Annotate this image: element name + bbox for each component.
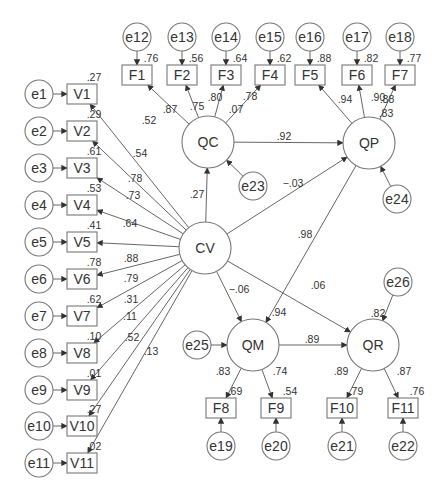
loading-label: .88	[124, 252, 139, 264]
path-cv-v10	[89, 269, 190, 416]
indicator-label: F8	[213, 400, 230, 416]
path-qc-qp	[234, 142, 343, 143]
path-cv-v8	[94, 265, 186, 343]
indicator-label: F2	[174, 67, 191, 83]
path-coefficient-label: .92	[277, 130, 292, 142]
r-squared-label: .27	[87, 403, 102, 415]
error-term-label: e5	[31, 234, 47, 250]
path-coefficient-label: .27	[190, 188, 205, 200]
error-term-label: e14	[214, 29, 238, 45]
latent-r-squared-label: .82	[371, 307, 386, 319]
latent-r-squared-label: .94	[272, 306, 287, 318]
indicator-label: F9	[268, 400, 285, 416]
r-squared-label: .76	[410, 385, 425, 397]
indicator-label: V3	[73, 160, 90, 176]
path-cv-v1	[90, 104, 189, 228]
indicator-label: F1	[129, 67, 146, 83]
loading-label: .31	[124, 293, 139, 305]
r-squared-label: .69	[228, 385, 243, 397]
error-term-label: e2	[31, 123, 47, 139]
r-squared-label: .61	[87, 145, 102, 157]
error-term-label: e18	[388, 29, 412, 45]
r-squared-label: .10	[87, 330, 102, 342]
loading-label: .80	[208, 91, 223, 103]
path-cv-v7	[97, 261, 182, 308]
path-qp-qm	[266, 166, 356, 323]
loading-label: .94	[338, 93, 353, 105]
error-term-label: e9	[31, 382, 47, 398]
indicator-label: F3	[218, 67, 235, 83]
loading-label: .83	[216, 365, 231, 377]
indicator-label: F11	[391, 400, 414, 416]
indicator-label: V10	[70, 418, 95, 434]
error-term-label: e17	[345, 29, 369, 45]
path-coefficient-label: −.06	[229, 283, 250, 295]
indicator-label: F7	[392, 67, 409, 83]
error-term-label: e22	[391, 438, 415, 454]
r-squared-label: .56	[189, 52, 204, 64]
error-term-label: e16	[298, 29, 322, 45]
error-term-label: e15	[258, 29, 282, 45]
r-squared-label: .02	[87, 440, 102, 452]
path-coefficient-label: .98	[298, 228, 313, 240]
indicator-label: F4	[262, 67, 279, 83]
indicator-label: V7	[73, 308, 90, 324]
path-cv-v4	[97, 210, 180, 239]
path-cv-v11	[88, 271, 192, 453]
r-squared-label: .82	[364, 52, 379, 64]
path-cv-qc	[206, 168, 208, 222]
r-squared-label: .01	[87, 367, 102, 379]
r-squared-label: .79	[349, 385, 364, 397]
r-squared-label: .29	[87, 108, 102, 120]
indicator-label: V5	[73, 234, 90, 250]
error-term-label: e6	[31, 271, 47, 287]
error-term-label: e24	[385, 191, 409, 207]
r-squared-label: .77	[407, 52, 422, 64]
path-coefficient-label: .06	[311, 279, 326, 291]
indicator-label: V8	[73, 345, 90, 361]
r-squared-label: .64	[233, 52, 248, 64]
error-term-label: e26	[386, 274, 410, 290]
r-squared-label: .27	[87, 71, 102, 83]
latent-factor-label: CV	[195, 240, 215, 256]
error-term-label: e21	[330, 438, 354, 454]
r-squared-label: .62	[277, 52, 292, 64]
r-squared-label: .53	[87, 182, 102, 194]
loading-label: .78	[243, 90, 258, 102]
latent-factor-label: QC	[198, 134, 219, 150]
loading-label: .54	[133, 147, 148, 159]
loading-label: .78	[128, 172, 143, 184]
r-squared-label: .62	[87, 293, 102, 305]
path-qm-f9	[262, 369, 272, 398]
loading-label: .73	[126, 189, 141, 201]
indicator-label: F10	[330, 400, 354, 416]
error-term-label: e25	[185, 337, 209, 353]
path-cv-v6	[97, 254, 180, 275]
error-term-label: e1	[31, 86, 47, 102]
loading-label: .13	[144, 345, 159, 357]
path-e24-qp	[381, 166, 391, 186]
error-term-label: e3	[31, 160, 47, 176]
path-e23-qc	[227, 160, 243, 176]
indicator-label: F6	[349, 67, 366, 83]
indicator-label: V9	[73, 382, 90, 398]
error-term-label: e10	[27, 418, 51, 434]
error-term-label: e20	[264, 438, 288, 454]
r-squared-label: .88	[317, 52, 332, 64]
loading-label: .89	[334, 365, 349, 377]
path-cv-v5	[97, 243, 179, 247]
error-term-label: e4	[31, 197, 47, 213]
r-squared-label: .78	[87, 256, 102, 268]
r-squared-label: .76	[144, 52, 159, 64]
loading-label: .88	[380, 93, 395, 105]
loading-label: .75	[190, 100, 205, 112]
r-squared-label: .54	[283, 385, 298, 397]
indicator-label: V2	[73, 123, 90, 139]
loading-label: .79	[124, 272, 139, 284]
error-term-label: e13	[170, 29, 194, 45]
loading-label: .64	[123, 217, 138, 229]
latent-r-squared-label: .83	[379, 107, 394, 119]
r-squared-label: .41	[87, 219, 102, 231]
sem-path-diagram: e1e2e3e4e5e6e7e8e9e10e11e12e13e14e15e16e…	[0, 0, 440, 490]
indicator-label: V4	[73, 197, 90, 213]
